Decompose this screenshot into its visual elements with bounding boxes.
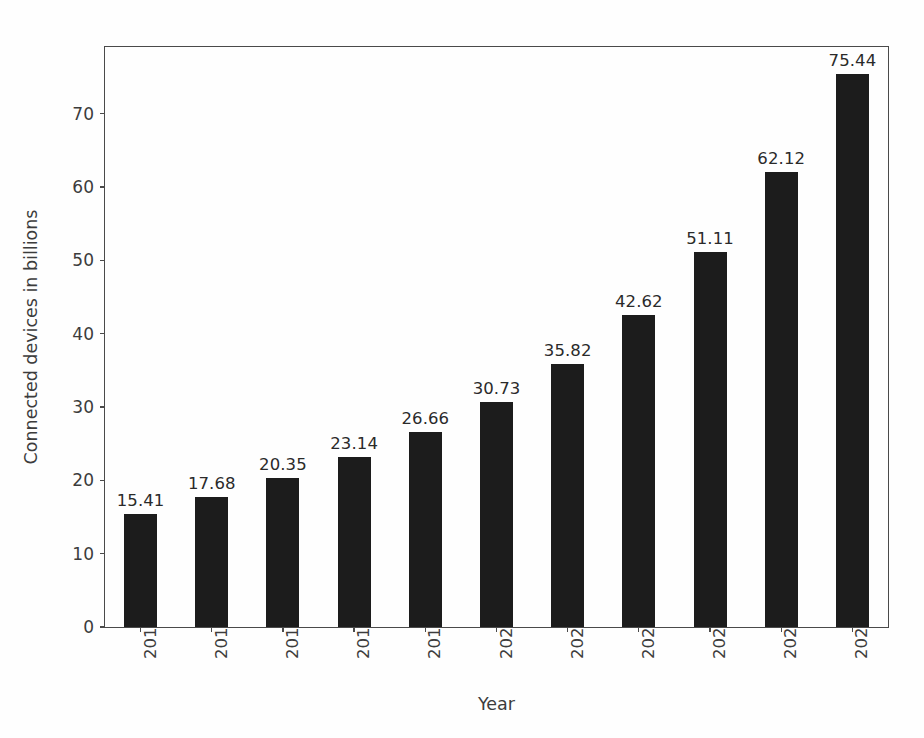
bar[interactable] (694, 252, 727, 627)
bar[interactable] (195, 497, 228, 627)
chart-figure: Connected devices in billions 0102030405… (0, 0, 924, 738)
bars-layer: 15.4117.6820.3523.1426.6630.7335.8242.62… (105, 47, 888, 627)
bar-group[interactable]: 26.66 (409, 47, 442, 627)
bar-value-label: 17.68 (188, 474, 236, 493)
bar[interactable] (836, 74, 869, 627)
bar[interactable] (480, 402, 513, 627)
y-tick-label: 50 (72, 250, 94, 270)
bar-value-label: 20.35 (259, 455, 307, 474)
y-axis-label: Connected devices in billions (18, 46, 44, 628)
x-axis-label: Year (104, 694, 889, 714)
bar-value-label: 23.14 (330, 434, 378, 453)
bar-group[interactable]: 51.11 (694, 47, 727, 627)
bar[interactable] (124, 514, 157, 627)
y-axis-label-text: Connected devices in billions (21, 210, 41, 465)
y-tick-label: 40 (72, 324, 94, 344)
bar-value-label: 42.62 (615, 292, 663, 311)
bar-group[interactable]: 20.35 (266, 47, 299, 627)
bar-group[interactable]: 30.73 (480, 47, 513, 627)
bar[interactable] (409, 432, 442, 627)
bar-value-label: 30.73 (473, 379, 521, 398)
bar-group[interactable]: 42.62 (622, 47, 655, 627)
bar-value-label: 62.12 (757, 149, 805, 168)
bar[interactable] (765, 172, 798, 627)
bar-group[interactable]: 17.68 (195, 47, 228, 627)
bar-value-label: 15.41 (117, 491, 165, 510)
bar-group[interactable]: 23.14 (338, 47, 371, 627)
y-tick-label: 20 (72, 470, 94, 490)
plot-area: 010203040506070 201520162017201820192020… (104, 46, 889, 628)
bar-group[interactable]: 62.12 (765, 47, 798, 627)
bar[interactable] (551, 364, 584, 627)
bar[interactable] (266, 478, 299, 627)
bar[interactable] (622, 315, 655, 628)
bar[interactable] (338, 457, 371, 627)
bar-group[interactable]: 15.41 (124, 47, 157, 627)
bar-value-label: 35.82 (544, 341, 592, 360)
y-tick-label: 60 (72, 177, 94, 197)
bar-group[interactable]: 75.44 (836, 47, 869, 627)
y-tick-label: 0 (83, 617, 94, 637)
y-tick-label: 70 (72, 104, 94, 124)
y-tick-label: 30 (72, 397, 94, 417)
bar-value-label: 26.66 (401, 409, 449, 428)
bar-group[interactable]: 35.82 (551, 47, 584, 627)
y-tick-label: 10 (72, 544, 94, 564)
bar-value-label: 75.44 (829, 51, 877, 70)
bar-value-label: 51.11 (686, 229, 734, 248)
